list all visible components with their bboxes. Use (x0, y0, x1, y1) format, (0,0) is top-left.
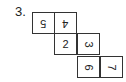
cell-number: 5 (40, 18, 46, 29)
net-cell: 6 (77, 56, 100, 78)
cell-number: 7 (106, 64, 117, 70)
net-cell: 4 (54, 12, 77, 34)
net-cell: 2 (54, 33, 77, 55)
net-cell: 3 (77, 33, 100, 55)
cell-number: 3 (83, 41, 94, 47)
cell-number: 2 (62, 39, 68, 50)
problem-number: 3. (15, 5, 26, 19)
net-cell: 7 (100, 56, 123, 78)
cell-number: 4 (62, 18, 68, 29)
net-cell: 5 (32, 12, 55, 34)
cell-number: 6 (83, 64, 94, 70)
